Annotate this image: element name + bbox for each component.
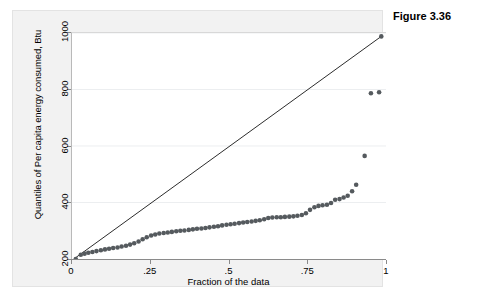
data-point [253, 219, 258, 224]
x-tick-mark [229, 260, 230, 264]
data-point [128, 242, 133, 247]
scatter-plot-svg [72, 33, 386, 259]
x-tick-mark [307, 260, 308, 264]
data-point [212, 225, 217, 230]
y-tick-label: 800 [59, 71, 70, 105]
data-point [257, 218, 262, 223]
data-point [300, 213, 305, 218]
data-point [283, 215, 288, 220]
data-point [350, 189, 355, 194]
data-point [165, 230, 170, 235]
data-point [144, 235, 149, 240]
data-point [249, 219, 254, 224]
data-point [153, 232, 158, 237]
data-point [124, 243, 129, 248]
data-point [274, 215, 279, 220]
data-point [379, 34, 384, 39]
figure-caption: Figure 3.36 [393, 10, 451, 22]
data-point [107, 247, 112, 252]
x-tick-label: 1 [366, 265, 406, 276]
data-point [266, 216, 271, 221]
x-tick-mark [150, 260, 151, 264]
x-tick-mark [71, 260, 72, 264]
data-point [377, 90, 382, 95]
gridlines [72, 33, 386, 203]
data-point [369, 91, 374, 96]
data-point [329, 201, 334, 206]
data-point [174, 229, 179, 234]
data-point [228, 222, 233, 227]
data-point [103, 247, 108, 252]
x-tick-label: .5 [209, 265, 249, 276]
data-point [308, 208, 313, 213]
x-tick-label: 0 [51, 265, 91, 276]
data-point [203, 226, 208, 231]
x-tick-label: .25 [130, 265, 170, 276]
graph-region: Quantiles of Per capita energy consumed,… [12, 10, 383, 287]
data-point [320, 203, 325, 208]
data-point [316, 204, 321, 209]
data-point [345, 193, 350, 198]
data-point [291, 214, 296, 219]
figure-container: Quantiles of Per capita energy consumed,… [0, 0, 479, 299]
data-point [111, 246, 116, 251]
data-point [232, 221, 237, 226]
data-point [99, 248, 104, 253]
data-point [337, 197, 342, 202]
x-tick-label: .75 [287, 265, 327, 276]
data-point [132, 241, 137, 246]
data-point [362, 154, 367, 159]
data-point [295, 213, 300, 218]
data-point [140, 237, 145, 242]
data-point [187, 228, 192, 233]
data-point [262, 217, 267, 222]
y-axis-title: Quantiles of Per capita energy consumed,… [32, 5, 43, 245]
plot-area [71, 32, 386, 259]
y-tick-label: 1000 [59, 15, 70, 49]
data-point [304, 211, 309, 216]
data-point [224, 223, 229, 228]
data-point [245, 220, 250, 225]
data-point [86, 250, 91, 255]
data-point [195, 226, 200, 231]
data-point [287, 214, 292, 219]
data-point [90, 250, 95, 255]
data-point [312, 205, 317, 210]
data-point [270, 215, 275, 220]
data-point [119, 244, 124, 249]
data-point [94, 249, 99, 254]
data-point [241, 220, 246, 225]
data-point [149, 233, 154, 238]
data-point [136, 239, 141, 244]
data-point [333, 197, 338, 202]
data-point [207, 225, 212, 230]
data-point [170, 230, 175, 235]
data-point [199, 226, 204, 231]
data-point [354, 182, 359, 187]
data-point [220, 223, 225, 228]
y-tick-label: 600 [59, 128, 70, 162]
data-point [341, 195, 346, 200]
data-point [115, 245, 120, 250]
data-point [161, 231, 166, 236]
data-point [178, 228, 183, 233]
data-point [157, 231, 162, 236]
y-tick-label: 400 [59, 185, 70, 219]
data-point [216, 224, 221, 229]
data-point [182, 228, 187, 233]
data-point [325, 202, 330, 207]
x-axis-title: Fraction of the data [71, 276, 386, 287]
data-point [279, 215, 284, 220]
data-point [191, 227, 196, 232]
data-point [237, 221, 242, 226]
x-tick-mark [386, 260, 387, 264]
